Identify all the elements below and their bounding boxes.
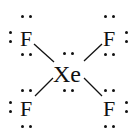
atom-f-bottom-right: F (103, 98, 115, 120)
f-bottom-left-lone-pair (29, 89, 32, 92)
f-top-left-lone-pair (29, 53, 32, 56)
f-bottom-right-lone-pair (112, 125, 115, 128)
f-top-right-lone-pair (125, 40, 128, 43)
f-bottom-left-lone-pair (21, 89, 24, 92)
atom-f-bottom-left: F (20, 98, 32, 120)
xe-lone-pair-bottom (71, 89, 74, 92)
bond-top-right (84, 44, 102, 61)
f-top-left-lone-pair (9, 31, 12, 34)
f-top-right-lone-pair (104, 53, 107, 56)
xe-lone-pair-top (71, 52, 74, 55)
xe-lone-pair-top (63, 52, 66, 55)
bond-bottom-right (84, 78, 102, 96)
bond-bottom-left (35, 78, 53, 96)
f-top-left-lone-pair (29, 15, 32, 18)
f-bottom-right-lone-pair (125, 101, 128, 104)
f-bottom-right-lone-pair (112, 89, 115, 92)
xe-lone-pair-bottom (63, 89, 66, 92)
f-bottom-right-lone-pair (104, 89, 107, 92)
f-top-right-lone-pair (112, 15, 115, 18)
f-top-left-lone-pair (9, 40, 12, 43)
atom-f-top-right: F (103, 28, 115, 50)
atom-xe: Xe (53, 62, 81, 86)
bond-top-left (34, 44, 54, 62)
f-bottom-left-lone-pair (21, 125, 24, 128)
f-top-left-lone-pair (21, 53, 24, 56)
f-top-right-lone-pair (125, 31, 128, 34)
f-top-right-lone-pair (104, 15, 107, 18)
f-top-right-lone-pair (112, 53, 115, 56)
atom-f-top-left: F (20, 28, 32, 50)
f-bottom-left-lone-pair (9, 101, 12, 104)
f-bottom-right-lone-pair (125, 110, 128, 113)
f-bottom-left-lone-pair (9, 110, 12, 113)
f-bottom-right-lone-pair (104, 125, 107, 128)
f-top-left-lone-pair (21, 15, 24, 18)
f-bottom-left-lone-pair (29, 125, 32, 128)
